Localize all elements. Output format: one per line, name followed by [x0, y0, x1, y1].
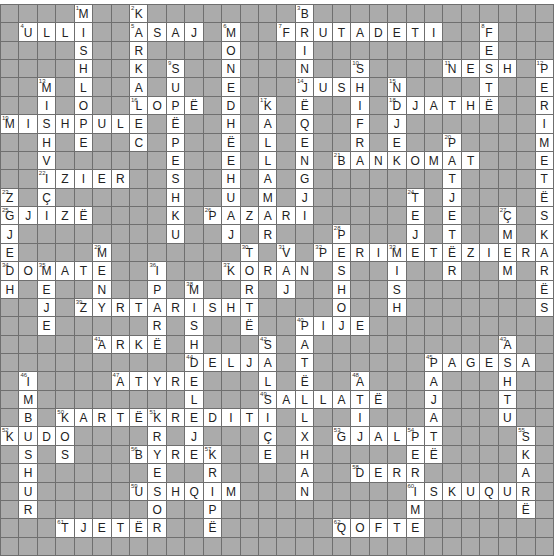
crossword-cell[interactable]: L: [259, 372, 276, 389]
crossword-cell[interactable]: H: [499, 60, 516, 77]
crossword-cell[interactable]: I: [259, 409, 276, 426]
crossword-cell[interactable]: U: [167, 225, 184, 242]
crossword-cell[interactable]: U: [19, 483, 36, 500]
crossword-cell[interactable]: R: [351, 244, 368, 261]
crossword-cell[interactable]: U: [499, 483, 516, 500]
crossword-cell[interactable]: 44D: [185, 354, 202, 371]
crossword-cell[interactable]: Q: [480, 483, 497, 500]
crossword-cell[interactable]: T: [241, 409, 258, 426]
crossword-cell[interactable]: R: [112, 299, 129, 316]
crossword-cell[interactable]: S: [75, 42, 92, 59]
crossword-cell[interactable]: S: [19, 446, 36, 463]
crossword-cell[interactable]: 13M: [38, 78, 55, 95]
crossword-cell[interactable]: I: [38, 97, 55, 114]
crossword-cell[interactable]: 19M: [1, 115, 18, 132]
crossword-cell[interactable]: U: [462, 483, 479, 500]
crossword-cell[interactable]: F: [351, 115, 368, 132]
crossword-cell[interactable]: 24T: [407, 189, 424, 206]
crossword-cell[interactable]: D: [222, 97, 239, 114]
crossword-cell[interactable]: 10S: [351, 60, 368, 77]
crossword-cell[interactable]: R: [167, 299, 184, 316]
crossword-cell[interactable]: N: [222, 60, 239, 77]
crossword-cell[interactable]: E: [75, 134, 92, 151]
crossword-cell[interactable]: O: [148, 501, 165, 518]
crossword-cell[interactable]: J: [185, 23, 202, 40]
crossword-cell[interactable]: F: [370, 519, 387, 536]
crossword-cell[interactable]: U: [19, 427, 36, 444]
crossword-cell[interactable]: A: [148, 299, 165, 316]
crossword-cell[interactable]: Z: [56, 170, 73, 187]
crossword-cell[interactable]: A: [351, 152, 368, 169]
crossword-cell[interactable]: 26P: [204, 207, 221, 224]
crossword-cell[interactable]: S: [499, 354, 516, 371]
crossword-cell[interactable]: K: [167, 207, 184, 224]
crossword-cell[interactable]: 22I: [38, 170, 55, 187]
crossword-cell[interactable]: Ë: [130, 409, 147, 426]
crossword-cell[interactable]: R: [407, 464, 424, 481]
crossword-cell[interactable]: S: [185, 317, 202, 334]
crossword-cell[interactable]: R: [148, 427, 165, 444]
crossword-cell[interactable]: 39Z: [75, 299, 92, 316]
crossword-cell[interactable]: S: [38, 115, 55, 132]
crossword-cell[interactable]: M: [19, 391, 36, 408]
crossword-cell[interactable]: E: [333, 244, 350, 261]
crossword-cell[interactable]: 47A: [112, 372, 129, 389]
crossword-cell[interactable]: I: [388, 262, 405, 279]
crossword-cell[interactable]: M: [536, 134, 553, 151]
crossword-cell[interactable]: 31V: [277, 244, 294, 261]
crossword-cell[interactable]: 46I: [19, 372, 36, 389]
crossword-cell[interactable]: 33M: [388, 244, 405, 261]
crossword-cell[interactable]: E: [222, 152, 239, 169]
crossword-cell[interactable]: 5A: [130, 23, 147, 40]
crossword-cell[interactable]: H: [388, 299, 405, 316]
crossword-cell[interactable]: A: [75, 409, 92, 426]
crossword-cell[interactable]: I: [351, 97, 368, 114]
crossword-cell[interactable]: 18D: [388, 97, 405, 114]
crossword-cell[interactable]: 1M: [75, 5, 92, 22]
crossword-cell[interactable]: P: [148, 281, 165, 298]
crossword-cell[interactable]: A: [259, 170, 276, 187]
crossword-cell[interactable]: E: [536, 78, 553, 95]
crossword-cell[interactable]: 42S: [259, 336, 276, 353]
crossword-cell[interactable]: X: [296, 427, 313, 444]
crossword-cell[interactable]: L: [388, 427, 405, 444]
crossword-cell[interactable]: D: [370, 23, 387, 40]
crossword-cell[interactable]: L: [75, 78, 92, 95]
crossword-cell[interactable]: E: [480, 42, 497, 59]
crossword-cell[interactable]: H: [222, 115, 239, 132]
crossword-cell[interactable]: I: [204, 483, 221, 500]
crossword-cell[interactable]: K: [443, 483, 460, 500]
crossword-cell[interactable]: N: [296, 262, 313, 279]
crossword-cell[interactable]: R: [296, 23, 313, 40]
crossword-cell[interactable]: T: [130, 372, 147, 389]
crossword-cell[interactable]: 4U: [19, 23, 36, 40]
crossword-cell[interactable]: A: [222, 207, 239, 224]
crossword-cell[interactable]: E: [93, 262, 110, 279]
crossword-cell[interactable]: 27Ç: [499, 207, 516, 224]
crossword-cell[interactable]: N: [93, 281, 110, 298]
crossword-cell[interactable]: L: [56, 23, 73, 40]
crossword-cell[interactable]: R: [517, 483, 534, 500]
crossword-cell[interactable]: U: [222, 189, 239, 206]
crossword-cell[interactable]: 50K: [56, 409, 73, 426]
crossword-cell[interactable]: 51K: [148, 409, 165, 426]
crossword-cell[interactable]: E: [38, 317, 55, 334]
crossword-cell[interactable]: A: [277, 391, 294, 408]
crossword-cell[interactable]: N: [296, 60, 313, 77]
crossword-cell[interactable]: R: [112, 170, 129, 187]
crossword-cell[interactable]: J: [38, 299, 55, 316]
crossword-cell[interactable]: N: [370, 152, 387, 169]
crossword-cell[interactable]: J: [1, 225, 18, 242]
crossword-cell[interactable]: A: [425, 409, 442, 426]
crossword-cell[interactable]: E: [388, 23, 405, 40]
crossword-cell[interactable]: Z: [241, 207, 258, 224]
crossword-cell[interactable]: 8F: [480, 23, 497, 40]
crossword-cell[interactable]: T: [388, 519, 405, 536]
crossword-cell[interactable]: H: [56, 115, 73, 132]
crossword-cell[interactable]: L: [259, 134, 276, 151]
crossword-cell[interactable]: J: [222, 225, 239, 242]
crossword-cell[interactable]: J: [351, 427, 368, 444]
crossword-cell[interactable]: S: [536, 207, 553, 224]
crossword-cell[interactable]: O: [75, 97, 92, 114]
crossword-cell[interactable]: H: [1, 281, 18, 298]
